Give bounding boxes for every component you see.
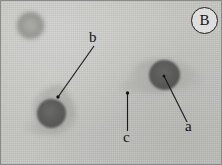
- micrograph-image: a b c B: [1, 1, 222, 165]
- panel-letter-glyph: B: [199, 12, 209, 29]
- label-b: b: [89, 30, 97, 45]
- label-a: a: [185, 119, 192, 134]
- leader-line-c: [1, 1, 222, 165]
- panel-letter-badge: B: [191, 7, 218, 34]
- label-c: c: [123, 130, 130, 145]
- figure-panel-b: a b c B: [0, 0, 222, 165]
